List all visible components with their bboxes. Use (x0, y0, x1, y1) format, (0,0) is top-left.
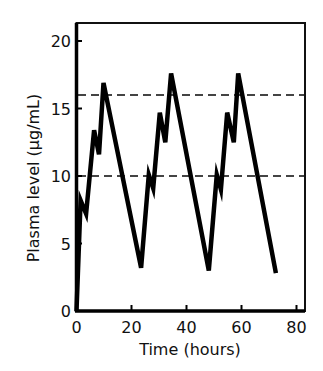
reference-lines (78, 95, 304, 176)
x-tick-label: 0 (71, 318, 81, 337)
x-tick-label: 80 (286, 318, 306, 337)
y-tick-label: 0 (61, 302, 71, 321)
y-tick-label: 5 (61, 235, 71, 254)
chart: 05101520 020406080 Time (hours) Plasma l… (0, 0, 323, 371)
series-line-plasma-level (77, 73, 276, 311)
x-axis-title: Time (hours) (138, 340, 241, 359)
y-axis-title: Plasma level (µg/mL) (24, 94, 43, 263)
y-tick-label: 20 (51, 32, 71, 51)
series-layer (77, 73, 276, 311)
y-tick-label: 10 (51, 167, 71, 186)
y-tick-label: 15 (51, 100, 71, 119)
x-tick-label: 60 (231, 318, 251, 337)
x-tick-label: 40 (176, 318, 196, 337)
x-tick-label: 20 (121, 318, 141, 337)
